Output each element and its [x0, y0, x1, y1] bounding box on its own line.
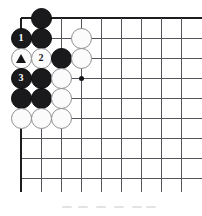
go-stone-black-3[interactable]: 3: [11, 68, 32, 89]
go-stone-white[interactable]: [51, 108, 72, 129]
go-stone-white-2[interactable]: 2: [31, 48, 52, 69]
go-diagram-figure: 123: [0, 0, 202, 216]
go-stone-black[interactable]: [11, 88, 32, 109]
scan-artifact: [114, 206, 124, 208]
star-point: [79, 76, 84, 81]
scan-artifact: [132, 206, 142, 208]
grid-line-horizontal: [21, 158, 202, 159]
grid-line-vertical: [161, 18, 162, 192]
grid-line-horizontal: [21, 178, 202, 179]
triangle-mark-icon: [16, 54, 26, 63]
grid-line-vertical: [121, 18, 122, 192]
go-stone-black-1[interactable]: 1: [11, 28, 32, 49]
go-stone-black[interactable]: [31, 8, 52, 29]
go-stone-black[interactable]: [31, 28, 52, 49]
go-stone-white[interactable]: [31, 108, 52, 129]
stone-move-number: 3: [19, 73, 24, 83]
go-stone-white[interactable]: [71, 28, 92, 49]
scan-artifact: [78, 206, 88, 208]
grid-line-vertical: [181, 18, 182, 192]
go-stone-white[interactable]: [51, 68, 72, 89]
go-board[interactable]: 123: [0, 0, 202, 216]
grid-line-vertical: [141, 18, 142, 192]
go-stone-black[interactable]: [51, 48, 72, 69]
go-stone-white[interactable]: [51, 88, 72, 109]
go-stone-white[interactable]: [11, 108, 32, 129]
grid-line-horizontal: [21, 138, 202, 139]
scan-artifact: [146, 206, 156, 208]
scan-artifact: [62, 206, 72, 208]
grid-line-vertical: [101, 18, 102, 192]
go-stone-black[interactable]: [31, 68, 52, 89]
stone-move-number: 1: [19, 33, 24, 43]
scan-artifact: [96, 206, 106, 208]
go-stone-white[interactable]: [71, 48, 92, 69]
go-stone-black[interactable]: [31, 88, 52, 109]
stone-move-number: 2: [39, 53, 44, 63]
go-stone-white-triangle[interactable]: [11, 48, 32, 69]
